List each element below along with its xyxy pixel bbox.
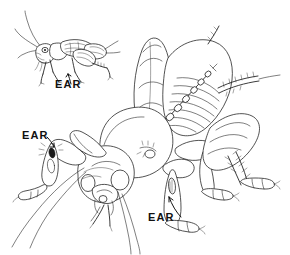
line-drawing-canvas: EAR EAR EAR — [0, 0, 290, 255]
ear-label-inset: EAR — [55, 78, 82, 90]
inset-eye-pupil — [44, 49, 46, 51]
labrum — [99, 196, 107, 203]
ear-label-left: EAR — [22, 129, 49, 141]
cricket-ear-figure: EAR EAR EAR — [0, 0, 290, 255]
ear-label-bottom: EAR — [148, 211, 175, 223]
